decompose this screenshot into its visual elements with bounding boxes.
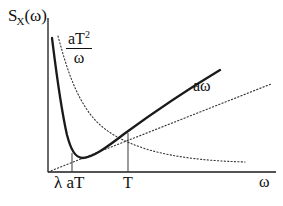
y-axis-label: SX(ω) <box>8 7 47 27</box>
annotation-a-omega: aω <box>193 78 211 94</box>
y-axis-label-argument: (ω) <box>24 6 47 25</box>
x-axis-label: ω <box>259 174 270 190</box>
annotation-aT2-over-omega: aT2 ω <box>66 30 92 66</box>
xtick-label-T: T <box>123 175 133 191</box>
plot-svg <box>0 0 283 206</box>
figure-canvas: SX(ω) aT2 ω aω λ aT T ω <box>0 0 283 206</box>
xtick-label-lambda-aT: λ aT <box>54 174 84 191</box>
fraction-numerator-text: aT <box>68 30 85 47</box>
fraction-numerator: aT2 <box>66 30 92 49</box>
fraction-denominator: ω <box>66 49 92 66</box>
fraction-numerator-exponent: 2 <box>85 29 90 40</box>
